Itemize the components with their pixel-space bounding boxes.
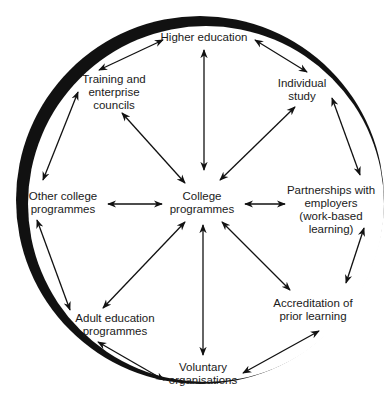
node-partnerships-with-employers: Partnerships with employers (work-based … xyxy=(287,184,375,236)
node-label: prior learning xyxy=(273,310,352,323)
node-label: learning) xyxy=(287,223,375,236)
node-label: Other college xyxy=(29,190,97,203)
node-label: (work-based xyxy=(287,210,375,223)
node-label: programmes xyxy=(29,203,97,216)
node-label: study xyxy=(278,90,327,103)
node-label: programmes xyxy=(75,325,154,338)
node-adult-education-programmes: Adult education programmes xyxy=(75,312,154,338)
node-label: Individual xyxy=(278,77,327,90)
node-label: organisations xyxy=(169,374,237,387)
node-label: Higher education xyxy=(161,31,248,44)
node-label: programmes xyxy=(170,203,235,216)
node-label: Training and xyxy=(82,73,146,86)
node-voluntary-organisations: Voluntary organisations xyxy=(169,361,237,387)
node-label: College xyxy=(170,190,235,203)
node-label: employers xyxy=(287,197,375,210)
node-label: Partnerships with xyxy=(287,184,375,197)
node-label: Accreditation of xyxy=(273,297,352,310)
node-college-programmes-center: College programmes xyxy=(170,190,235,216)
node-accreditation-of-prior-learning: Accreditation of prior learning xyxy=(273,297,352,323)
node-higher-education: Higher education xyxy=(161,31,248,44)
node-individual-study: Individual study xyxy=(278,77,327,103)
node-label: enterprise xyxy=(82,86,146,99)
node-label: councils xyxy=(82,99,146,112)
node-training-and-enterprise-councils: Training and enterprise councils xyxy=(82,73,146,112)
node-label: Adult education xyxy=(75,312,154,325)
node-other-college-programmes: Other college programmes xyxy=(29,190,97,216)
node-label: Voluntary xyxy=(169,361,237,374)
